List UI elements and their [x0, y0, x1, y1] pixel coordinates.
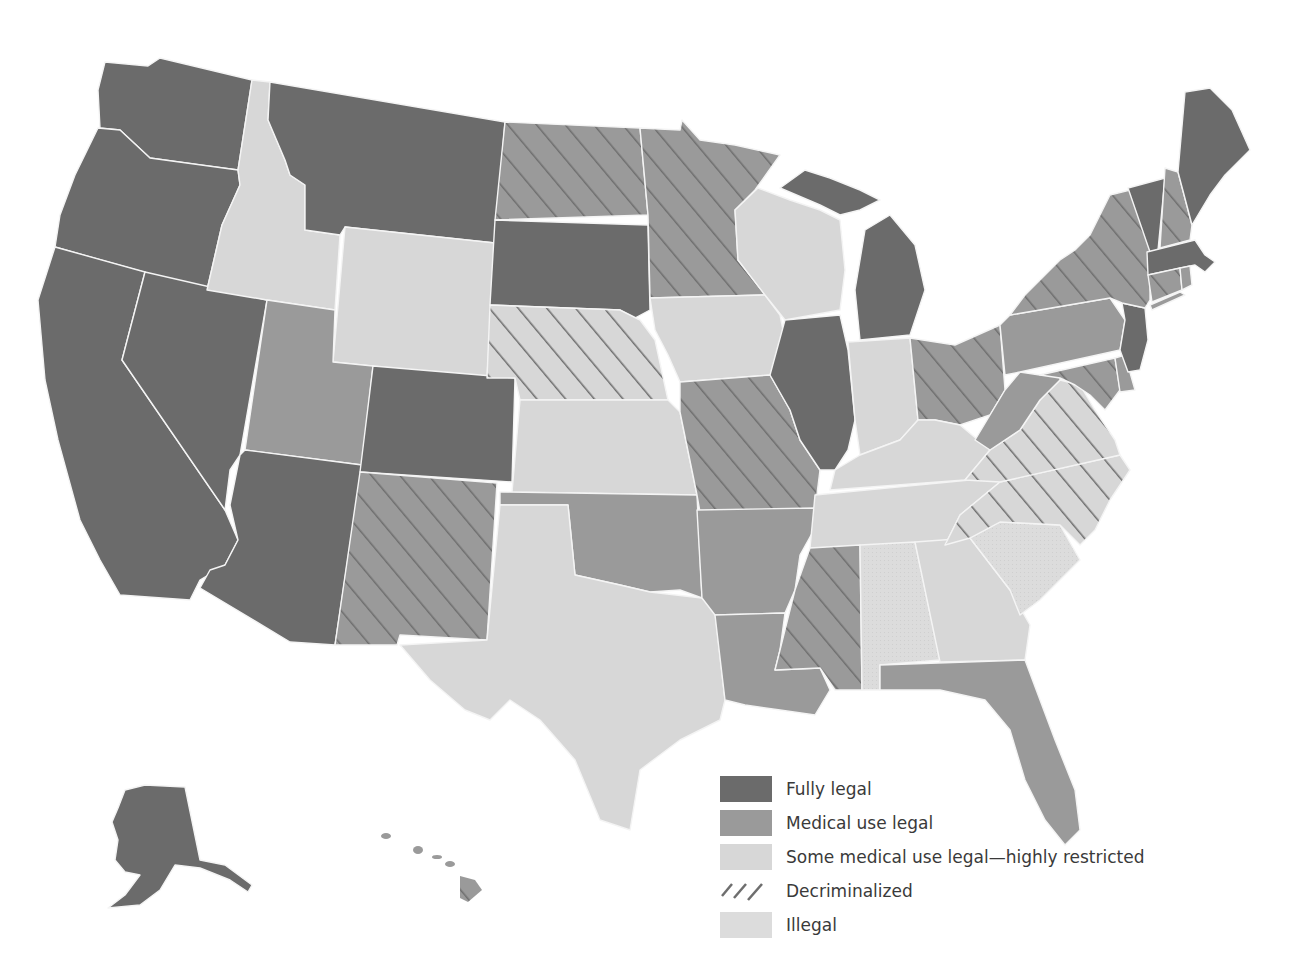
- legend-item-decriminalized: Decriminalized: [720, 874, 1144, 908]
- state-new-mexico: [335, 472, 497, 645]
- state-north-dakota: [495, 122, 648, 220]
- state-south-dakota: [490, 220, 650, 318]
- state-alaska: [108, 785, 252, 908]
- legend-label: Illegal: [786, 915, 837, 935]
- legend-label: Some medical use legal—highly restricted: [786, 847, 1144, 867]
- hatch-icon: [720, 878, 772, 904]
- swatch-illegal: [720, 912, 772, 938]
- state-maine: [1178, 88, 1250, 225]
- state-new-jersey: [1120, 303, 1148, 372]
- state-wyoming: [333, 227, 495, 378]
- legend-item-fully-legal: Fully legal: [720, 772, 1144, 806]
- state-iowa: [650, 295, 785, 382]
- state-michigan-lower: [855, 215, 925, 340]
- state-kansas: [512, 400, 697, 495]
- legend-item-medical: Medical use legal: [720, 806, 1144, 840]
- state-rhode-island: [1180, 266, 1192, 290]
- legend: Fully legal Medical use legal Some medic…: [720, 772, 1144, 942]
- legend-item-illegal: Illegal: [720, 908, 1144, 942]
- legend-label: Decriminalized: [786, 881, 913, 901]
- state-ohio: [910, 325, 1005, 425]
- swatch-medical: [720, 810, 772, 836]
- legend-item-restricted: Some medical use legal—highly restricted: [720, 840, 1144, 874]
- legend-label: Medical use legal: [786, 813, 933, 833]
- state-colorado: [360, 366, 515, 482]
- state-new-york: [1010, 190, 1150, 315]
- swatch-restricted: [720, 844, 772, 870]
- legend-label: Fully legal: [786, 779, 872, 799]
- swatch-fully-legal: [720, 776, 772, 802]
- state-hawaii: [381, 833, 482, 902]
